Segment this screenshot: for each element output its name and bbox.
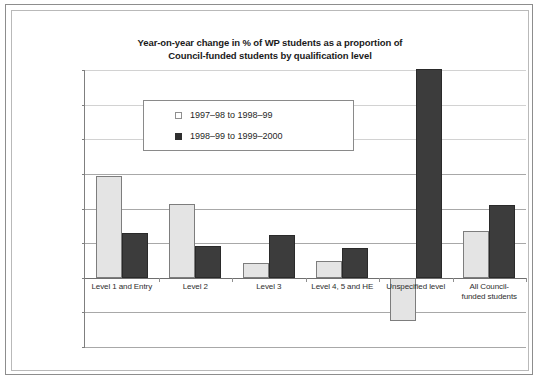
legend-entry-1: 1998–99 to 1999–2000 xyxy=(175,130,283,142)
bar xyxy=(243,263,269,278)
gridline xyxy=(85,174,526,175)
x-axis-tick-mark xyxy=(526,278,527,282)
chart-title-line-1: Year-on-year change in % of WP students … xyxy=(95,36,445,49)
chart-title-line-2: Council-funded students by qualification… xyxy=(95,49,445,62)
bar xyxy=(269,235,295,278)
gridline xyxy=(85,243,526,244)
y-axis-tick-mark xyxy=(82,174,85,175)
gridline xyxy=(85,209,526,210)
bar xyxy=(195,246,221,278)
y-axis-tick-mark xyxy=(82,347,85,348)
x-axis-category-label: All Council-funded students xyxy=(453,282,527,302)
bar xyxy=(489,205,515,278)
bar xyxy=(342,248,368,278)
legend-label-1: 1998–99 to 1999–2000 xyxy=(190,131,283,141)
bar xyxy=(96,176,122,278)
x-axis-category-label: Unspecified level xyxy=(379,282,453,292)
gridline xyxy=(85,70,526,71)
bar xyxy=(463,231,489,277)
x-axis-category-label-line: Level 1 and Entry xyxy=(85,282,159,292)
x-axis-category-label-line: Level 2 xyxy=(159,282,233,292)
x-axis-category-label: Level 4, 5 and HE xyxy=(306,282,380,292)
gridline xyxy=(85,347,526,348)
legend-entry-0: 1997–98 to 1998–99 xyxy=(175,109,273,121)
y-axis-tick-mark xyxy=(82,243,85,244)
y-axis-tick-mark xyxy=(82,278,85,279)
y-axis-tick-mark xyxy=(82,312,85,313)
bar xyxy=(169,204,195,278)
y-axis-tick-mark xyxy=(82,105,85,106)
bar xyxy=(316,261,342,278)
chart-legend: 1997–98 to 1998–99 1998–99 to 1999–2000 xyxy=(143,100,354,151)
x-axis-category-label-line: Level 3 xyxy=(232,282,306,292)
legend-swatch-dark-icon xyxy=(175,133,182,140)
x-axis-category-label: Level 1 and Entry xyxy=(85,282,159,292)
bar-chart: Year-on-year change in % of WP students … xyxy=(0,0,541,383)
bar xyxy=(416,69,442,278)
y-axis-tick-mark xyxy=(82,70,85,71)
x-axis-category-label-line: funded students xyxy=(453,292,527,302)
x-axis-category-label-line: All Council- xyxy=(453,282,527,292)
y-axis-tick-mark xyxy=(82,139,85,140)
x-axis-category-label: Level 2 xyxy=(159,282,233,292)
gridline xyxy=(85,312,526,313)
chart-title: Year-on-year change in % of WP students … xyxy=(95,36,445,62)
x-axis-category-label-line: Level 4, 5 and HE xyxy=(306,282,380,292)
y-axis-tick-mark xyxy=(82,209,85,210)
legend-label-0: 1997–98 to 1998–99 xyxy=(190,110,273,120)
bar xyxy=(122,233,148,278)
x-axis-category-label: Level 3 xyxy=(232,282,306,292)
legend-swatch-light-icon xyxy=(175,112,182,119)
x-axis-category-label-line: Unspecified level xyxy=(379,282,453,292)
